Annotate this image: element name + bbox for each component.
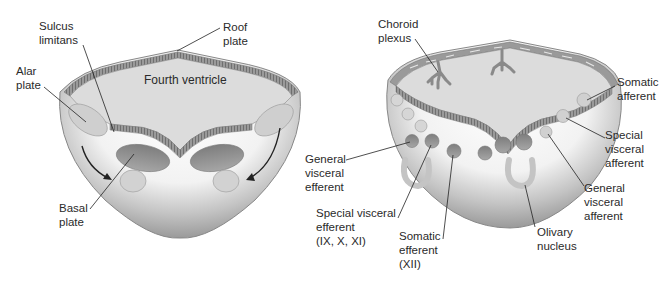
label-fourth-ventricle: Fourth ventricle [144,73,227,87]
label-somatic-afferent: Somatic afferent [617,75,659,103]
label-olivary-nucleus: Olivary nucleus [537,225,577,253]
left-migrated-nucleus-left [120,170,146,192]
nucleus-sve-right [495,137,511,153]
label-sulcus-limitans: Sulcus limitans [39,19,78,47]
nucleus-gve-left [406,135,419,148]
label-general-visceral-afferent: General visceral afferent [584,181,625,223]
label-special-visceral-efferent: Special visceral efferent (IX, X, XI) [316,206,396,248]
nucleus-sva-left [402,108,414,120]
nucleus-gva-right [540,126,552,138]
label-alar-plate: Alar plate [16,64,41,92]
label-choroid-plexus: Choroid plexus [378,17,418,45]
label-general-visceral-efferent: General visceral efferent [305,152,346,194]
left-migrated-nucleus-right [213,170,239,192]
nucleus-gve-right [516,134,532,150]
label-basal-plate: Basal plate [59,201,88,229]
label-roof-plate: Roof plate [223,20,248,48]
nucleus-se-right [478,146,492,160]
nucleus-sa-left [391,94,403,106]
nucleus-sva-right [557,110,570,123]
nucleus-sa-right [577,93,591,107]
nucleus-sve-left [425,134,439,148]
nucleus-se-left [447,144,461,158]
leader-roof-plate [177,28,220,51]
nucleus-gva-left [415,120,427,132]
label-somatic-efferent: Somatic efferent (XII) [399,229,441,271]
label-special-visceral-afferent: Special visceral afferent [605,128,644,170]
